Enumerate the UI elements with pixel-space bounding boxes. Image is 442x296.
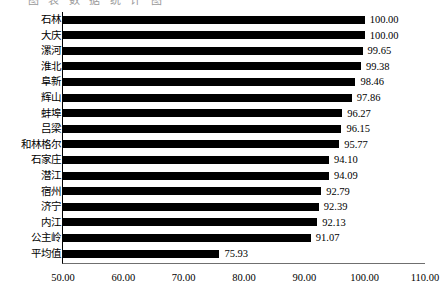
bar <box>63 172 329 180</box>
bar-track: 98.46 <box>63 74 425 90</box>
bar <box>63 78 355 86</box>
category-label: 漯河 <box>41 43 61 59</box>
x-axis-tick-label: 90.00 <box>293 272 317 283</box>
bar-row: 公主岭91.07 <box>0 230 442 246</box>
horizontal-bar-chart: 石林100.00大庆100.00漯河99.65淮北99.38阜新98.46辉山9… <box>0 0 442 296</box>
bar-value-label: 95.77 <box>339 137 368 153</box>
bar-row: 石林100.00 <box>0 12 442 28</box>
bar-value-label: 92.79 <box>321 184 350 200</box>
bar <box>63 16 365 24</box>
bar-row: 济宁92.39 <box>0 199 442 215</box>
x-axis-tick-label: 100.00 <box>350 272 379 283</box>
x-axis: 50.0060.0070.0080.0090.00100.00110.00 <box>0 264 442 296</box>
bar-value-label: 99.65 <box>363 43 392 59</box>
bar <box>63 94 352 102</box>
bar-track: 92.79 <box>63 184 425 200</box>
bar <box>63 31 365 39</box>
x-axis-tick-label: 80.00 <box>232 272 256 283</box>
bar <box>63 187 321 195</box>
category-label: 石家庄 <box>31 152 61 168</box>
bar-row: 漯河99.65 <box>0 43 442 59</box>
bar-row: 吕梁96.15 <box>0 121 442 137</box>
category-label: 石林 <box>41 12 61 28</box>
bar-value-label: 100.00 <box>365 12 399 28</box>
bar-value-label: 99.38 <box>361 59 390 75</box>
category-label: 淮北 <box>41 59 61 75</box>
category-label: 宿州 <box>41 184 61 200</box>
bar <box>63 218 317 226</box>
bar <box>63 62 361 70</box>
bar-row: 和林格尔95.77 <box>0 137 442 153</box>
x-axis-tick-label: 60.00 <box>112 272 136 283</box>
bar-row: 淮北99.38 <box>0 59 442 75</box>
bar-track: 96.15 <box>63 121 425 137</box>
bar-track: 100.00 <box>63 28 425 44</box>
category-label: 公主岭 <box>31 230 61 246</box>
category-label: 内江 <box>41 215 61 231</box>
bar-track: 75.93 <box>63 246 425 262</box>
bar-value-label: 92.13 <box>317 215 346 231</box>
bar-row: 潜江94.09 <box>0 168 442 184</box>
x-axis-tick-label: 110.00 <box>411 272 440 283</box>
bar-track: 95.77 <box>63 137 425 153</box>
bar-value-label: 94.09 <box>329 168 358 184</box>
bar <box>63 156 329 164</box>
bar-row: 辉山97.86 <box>0 90 442 106</box>
bar <box>63 203 319 211</box>
bar-value-label: 94.10 <box>329 152 358 168</box>
bar-value-label: 96.27 <box>342 106 371 122</box>
bar <box>63 250 219 258</box>
x-axis-tick-label: 50.00 <box>51 272 75 283</box>
bar-track: 94.10 <box>63 152 425 168</box>
category-label: 济宁 <box>41 199 61 215</box>
bar-value-label: 96.15 <box>341 121 370 137</box>
category-label: 辉山 <box>41 90 61 106</box>
bar-track: 94.09 <box>63 168 425 184</box>
category-label: 和林格尔 <box>21 137 61 153</box>
bar-track: 99.65 <box>63 43 425 59</box>
bar-rows-container: 石林100.00大庆100.00漯河99.65淮北99.38阜新98.46辉山9… <box>0 12 442 264</box>
category-label: 吕梁 <box>41 121 61 137</box>
bar-row: 平均值75.93 <box>0 246 442 262</box>
bar <box>63 109 342 117</box>
bar-row: 阜新98.46 <box>0 74 442 90</box>
bar-value-label: 92.39 <box>319 199 348 215</box>
bar-track: 97.86 <box>63 90 425 106</box>
category-label: 平均值 <box>31 246 61 262</box>
bar-row: 内江92.13 <box>0 215 442 231</box>
bar <box>63 125 341 133</box>
bar-value-label: 91.07 <box>311 230 340 246</box>
bar-track: 99.38 <box>63 59 425 75</box>
bar <box>63 140 339 148</box>
category-label: 大庆 <box>41 28 61 44</box>
bar-value-label: 98.46 <box>355 74 384 90</box>
category-label: 蚌埠 <box>41 106 61 122</box>
bar-row: 蚌埠96.27 <box>0 106 442 122</box>
category-label: 阜新 <box>41 74 61 90</box>
bar-track: 91.07 <box>63 230 425 246</box>
bar-value-label: 100.00 <box>365 28 399 44</box>
bar-row: 石家庄94.10 <box>0 152 442 168</box>
bar-value-label: 75.93 <box>219 246 248 262</box>
x-axis-tick-label: 70.00 <box>172 272 196 283</box>
bar-track: 100.00 <box>63 12 425 28</box>
bar <box>63 47 363 55</box>
bar <box>63 234 311 242</box>
bar-track: 92.13 <box>63 215 425 231</box>
bar-value-label: 97.86 <box>352 90 381 106</box>
bar-row: 宿州92.79 <box>0 184 442 200</box>
bar-track: 96.27 <box>63 106 425 122</box>
category-label: 潜江 <box>41 168 61 184</box>
bar-track: 92.39 <box>63 199 425 215</box>
bar-row: 大庆100.00 <box>0 28 442 44</box>
